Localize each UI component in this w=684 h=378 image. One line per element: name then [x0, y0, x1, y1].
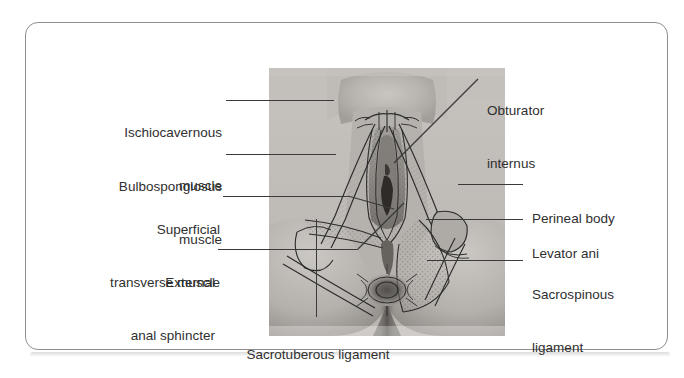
leader-sacrospinous-ligament [427, 260, 523, 261]
label-obturator-internus-line1: Obturator [487, 102, 657, 120]
label-superficial-transverse-muscle-line1: Superficial [40, 221, 220, 239]
label-sacrospinous-ligament-line1: Sacrospinous [532, 286, 682, 304]
label-sacrospinous-ligament-line2: ligament [532, 339, 682, 357]
label-external-anal-sphincter-line1: External [40, 274, 215, 292]
figure-root: Ischiocavernous muscle Bulbospongiosus m… [0, 0, 684, 378]
leader-levator-ani [426, 219, 523, 220]
leader-sacrotuberous-ligament [316, 219, 317, 317]
label-ischiocavernous-muscle-line1: Ischiocavernous [46, 124, 222, 142]
figure-card: Ischiocavernous muscle Bulbospongiosus m… [25, 22, 668, 350]
label-sacrotuberous-ligament: Sacrotuberous ligament [178, 311, 458, 378]
label-sacrospinous-ligament: Sacrospinous ligament [532, 251, 682, 378]
label-obturator-internus-line2: internus [487, 155, 657, 173]
label-sacrotuberous-ligament-line1: Sacrotuberous ligament [178, 346, 458, 364]
